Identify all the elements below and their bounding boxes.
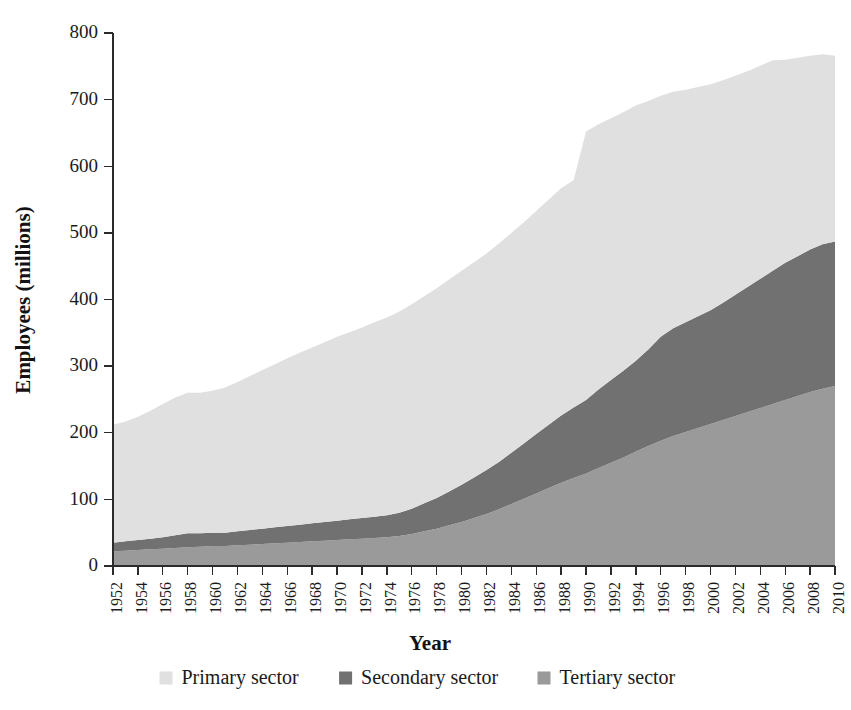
legend-label-tertiary-sector: Tertiary sector [560, 666, 676, 689]
x-tick-label: 1990 [581, 582, 598, 614]
x-tick-label: 1958 [182, 582, 199, 614]
y-tick-label: 800 [70, 21, 99, 42]
x-tick-label: 2000 [705, 582, 722, 614]
x-tick-label: 1970 [332, 582, 349, 614]
x-tick-label: 1978 [431, 582, 448, 614]
chart-canvas: 0100200300400500600700800 19521954195619… [0, 0, 851, 710]
x-tick-label: 2010 [830, 582, 847, 614]
legend-label-primary-sector: Primary sector [182, 666, 300, 689]
y-axis-title: Employees (millions) [11, 206, 35, 393]
x-tick-label: 1974 [382, 582, 399, 614]
x-tick-label: 1992 [606, 582, 623, 614]
x-tick-label: 1952 [108, 582, 125, 614]
legend-swatch-secondary-sector [339, 672, 352, 685]
y-tick-label: 100 [70, 488, 99, 509]
legend: Primary sectorSecondary sectorTertiary s… [160, 666, 676, 689]
x-axis: 1952195419561958196019621964196619681970… [108, 566, 847, 614]
y-tick-label: 200 [70, 421, 99, 442]
legend-label-secondary-sector: Secondary sector [361, 666, 499, 689]
x-tick-label: 1980 [456, 582, 473, 614]
x-tick-label: 1968 [307, 582, 324, 614]
x-tick-label: 1994 [630, 582, 647, 614]
x-tick-label: 2004 [755, 582, 772, 614]
x-tick-label: 1956 [157, 582, 174, 614]
x-tick-label: 1962 [232, 582, 249, 614]
x-tick-label: 1972 [357, 582, 374, 614]
x-tick-label: 1976 [406, 582, 423, 614]
x-tick-label: 1984 [506, 582, 523, 614]
y-axis: 0100200300400500600700800 [70, 21, 114, 575]
y-tick-label: 300 [70, 354, 99, 375]
plot-areas [113, 54, 835, 566]
stacked-area-chart: 0100200300400500600700800 19521954195619… [0, 0, 851, 710]
y-tick-label: 600 [70, 155, 99, 176]
y-tick-label: 500 [70, 221, 99, 242]
y-tick-label: 400 [70, 288, 99, 309]
x-tick-label: 1964 [257, 582, 274, 614]
x-tick-label: 1960 [207, 582, 224, 614]
legend-swatch-primary-sector [160, 672, 173, 685]
legend-swatch-tertiary-sector [538, 672, 551, 685]
y-tick-label: 0 [89, 554, 99, 575]
x-tick-label: 2006 [780, 582, 797, 614]
x-axis-title: Year [409, 631, 451, 655]
x-tick-label: 1954 [133, 582, 150, 614]
x-tick-label: 1996 [655, 582, 672, 614]
x-tick-label: 1988 [556, 582, 573, 614]
x-tick-label: 1986 [531, 582, 548, 614]
x-tick-label: 1982 [481, 582, 498, 614]
x-tick-label: 1998 [680, 582, 697, 614]
x-tick-label: 1966 [282, 582, 299, 614]
y-tick-label: 700 [70, 88, 99, 109]
x-tick-label: 2002 [730, 582, 747, 614]
x-tick-label: 2008 [805, 582, 822, 614]
